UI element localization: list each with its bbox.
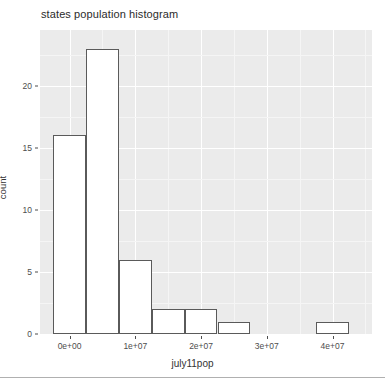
histogram-bar <box>53 135 86 334</box>
y-axis-tick-label: 5 <box>27 267 32 277</box>
y-axis-tick-mark <box>35 209 38 210</box>
histogram-bar <box>119 260 152 334</box>
y-axis-tick-label: 20 <box>23 81 32 91</box>
gridline-minor-vertical <box>365 30 366 334</box>
x-axis-tick-label: 1e+07 <box>123 341 147 351</box>
gridline-minor-vertical <box>234 30 235 334</box>
y-axis-tick-label: 15 <box>23 143 32 153</box>
y-axis-tick-label: 10 <box>23 205 32 215</box>
histogram-bar <box>86 49 119 334</box>
x-axis-tick-label: 2e+07 <box>189 341 213 351</box>
x-axis-label: july11pop <box>0 358 385 369</box>
y-axis-tick-mark <box>35 147 38 148</box>
y-axis-tick-mark <box>35 271 38 272</box>
x-axis-tick-mark <box>70 336 71 339</box>
y-axis-tick-mark <box>35 85 38 86</box>
x-axis-tick-label: 4e+07 <box>321 341 345 351</box>
x-axis-tick-mark <box>135 336 136 339</box>
bottom-divider <box>0 377 385 378</box>
x-axis: 0e+001e+072e+073e+074e+07 <box>40 334 372 358</box>
x-axis-tick-label: 0e+00 <box>58 341 82 351</box>
plot-panel <box>40 30 372 334</box>
histogram-bar <box>185 309 218 334</box>
gridline-major-vertical <box>201 30 202 334</box>
x-axis-tick-mark <box>201 336 202 339</box>
gridline-minor-vertical <box>168 30 169 334</box>
gridline-major-vertical <box>267 30 268 334</box>
y-axis-label: count <box>0 176 8 199</box>
x-axis-tick-mark <box>267 336 268 339</box>
y-axis-tick-label: 0 <box>27 329 32 339</box>
histogram-bar <box>152 309 185 334</box>
histogram-bar <box>316 322 349 334</box>
gridline-minor-vertical <box>300 30 301 334</box>
x-axis-tick-mark <box>333 336 334 339</box>
x-axis-tick-label: 3e+07 <box>255 341 279 351</box>
histogram-bar <box>218 322 251 334</box>
chart-figure: states population histogram 05101520 0e+… <box>0 0 385 387</box>
y-axis-tick-mark <box>35 334 38 335</box>
chart-title: states population histogram <box>41 8 178 20</box>
gridline-major-vertical <box>333 30 334 334</box>
